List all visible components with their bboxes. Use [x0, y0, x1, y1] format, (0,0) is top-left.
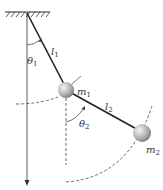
double-pendulum-diagram: l1 θ1 m1 l2 θ2 m2 [0, 0, 163, 190]
theta1-arc [27, 40, 40, 45]
vertical-reference-arrow [25, 13, 30, 186]
label-theta1: θ1 [27, 55, 38, 68]
mass-2 [133, 124, 151, 142]
rod-1 [27, 13, 66, 88]
label-theta2: θ2 [79, 118, 90, 131]
mass-1 [58, 82, 74, 98]
label-l1: l1 [51, 46, 59, 59]
label-m2: m2 [146, 144, 160, 157]
m1-trajectory-arc [16, 97, 58, 104]
rod-1-extension [72, 76, 81, 84]
